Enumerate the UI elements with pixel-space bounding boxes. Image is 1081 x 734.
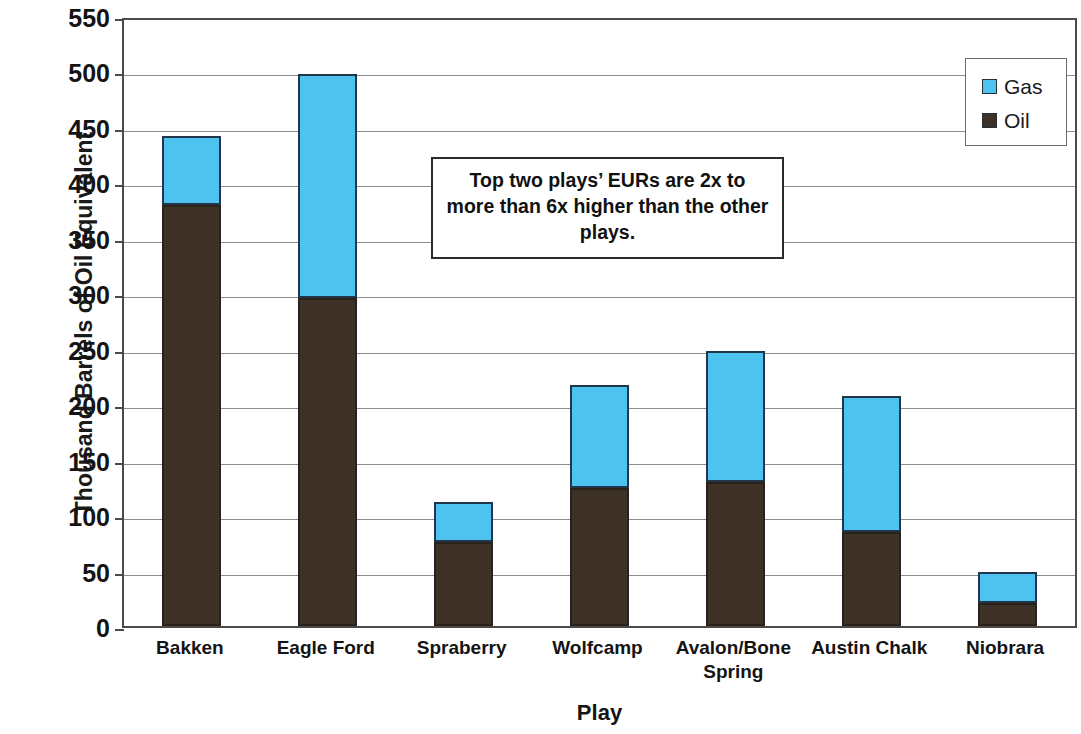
y-axis-tick-labels: 050100150200250300350400450500550 [0,0,118,734]
chart-legend: GasOil [965,58,1067,146]
annotation-callout: Top two plays’ EURs are 2x to more than … [431,157,784,259]
y-axis-tick-mark [115,130,124,132]
y-axis-tick-label: 0 [0,616,110,641]
y-axis-tick-mark [115,19,124,21]
bar-segment-gas [706,351,765,482]
plot-area [122,18,1077,628]
y-axis-tick-mark [115,574,124,576]
bar-segment-oil [162,205,221,626]
y-axis-tick-mark [115,74,124,76]
legend-swatch-icon [982,79,997,94]
x-axis-tick-label: Niobrara [937,636,1073,660]
bar-segment-gas [842,396,901,531]
x-axis-tick-labels: BakkenEagle FordSpraberryWolfcampAvalon/… [122,636,1077,696]
x-axis-tick-label: Avalon/​Bone Spring [665,636,801,684]
legend-entry: Oil [982,103,1066,137]
bar-segment-gas [434,502,493,542]
x-axis-tick-label: Spraberry [394,636,530,660]
bar-group [298,74,357,626]
legend-swatch-icon [982,113,997,128]
bar-group [978,572,1037,626]
legend-label: Oil [1004,110,1030,131]
x-axis-tick-label: Wolfcamp [530,636,666,660]
y-axis-tick-mark [115,518,124,520]
y-axis-tick-label: 500 [0,61,110,86]
x-axis-title: Play [122,700,1077,726]
bar-segment-oil [298,298,357,626]
y-axis-tick-label: 350 [0,227,110,252]
stacked-bar-chart: Thousand Barrels of Oil Equivalent 05010… [0,0,1081,734]
bars-layer [124,20,1075,626]
y-axis-tick-label: 450 [0,116,110,141]
legend-label: Gas [1004,76,1043,97]
x-axis-tick-label: Bakken [122,636,258,660]
bar-group [434,502,493,626]
y-axis-tick-label: 150 [0,449,110,474]
y-axis-tick-mark [115,352,124,354]
y-axis-tick-mark [115,185,124,187]
y-axis-tick-mark [115,296,124,298]
bar-segment-oil [978,603,1037,626]
y-axis-tick-label: 400 [0,172,110,197]
bar-segment-gas [298,74,357,298]
bar-segment-oil [706,482,765,626]
bar-segment-gas [978,572,1037,603]
bar-segment-oil [842,532,901,626]
y-axis-tick-label: 300 [0,283,110,308]
x-axis-tick-label: Eagle Ford [258,636,394,660]
bar-segment-gas [570,385,629,488]
bar-segment-gas [162,136,221,205]
y-axis-tick-mark [115,407,124,409]
bar-group [842,396,901,626]
bar-group [706,351,765,626]
x-axis-tick-label: Austin Chalk [801,636,937,660]
y-axis-tick-mark [115,629,124,631]
y-axis-tick-mark [115,241,124,243]
bar-group [570,385,629,626]
y-axis-tick-label: 250 [0,338,110,363]
y-axis-tick-label: 550 [0,6,110,31]
legend-entry: Gas [982,69,1066,103]
y-axis-tick-mark [115,463,124,465]
y-axis-tick-label: 50 [0,560,110,585]
y-axis-tick-label: 200 [0,394,110,419]
bar-segment-oil [570,488,629,626]
bar-group [162,136,221,626]
bar-segment-oil [434,542,493,626]
y-axis-tick-label: 100 [0,505,110,530]
